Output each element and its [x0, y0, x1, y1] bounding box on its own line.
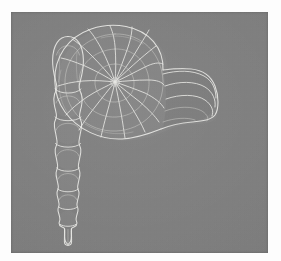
specimen-right-planispiral-shell — [11, 12, 268, 253]
plate-background — [11, 12, 268, 253]
plate-figure — [0, 0, 281, 261]
right-specimen-body — [55, 25, 219, 141]
